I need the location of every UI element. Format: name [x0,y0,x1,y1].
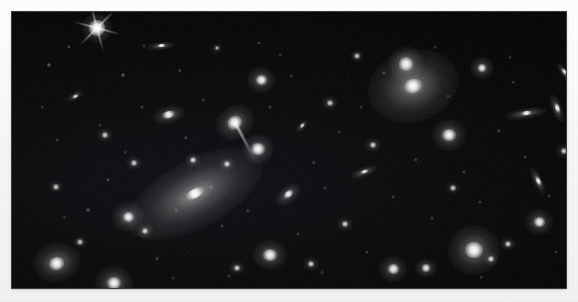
screenshot-root [0,0,578,302]
night-sky-background [12,12,566,288]
caption-area [12,290,566,300]
astronomy-image-frame [12,12,566,288]
